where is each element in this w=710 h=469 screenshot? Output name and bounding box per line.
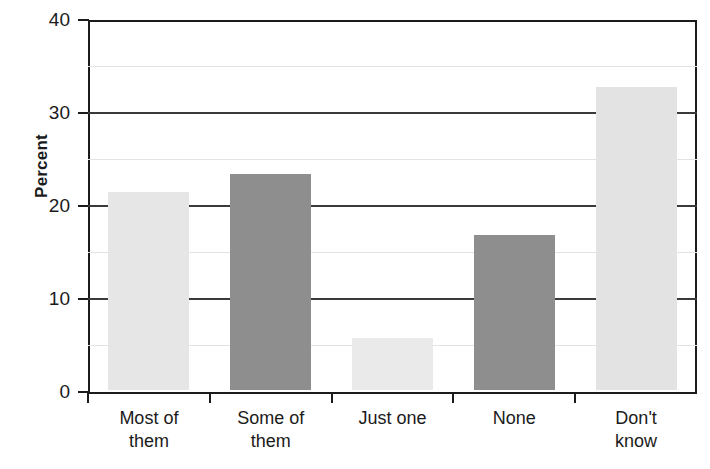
x-tick-label-1: Some ofthem <box>201 407 341 453</box>
bar-2 <box>352 338 433 390</box>
x-tick-mark-0 <box>87 392 89 403</box>
x-tick-mark-1 <box>209 392 211 403</box>
bar-3 <box>474 235 555 390</box>
y-tick-label-40: 40 <box>26 10 70 29</box>
x-tick-label-2: Just one <box>323 407 463 430</box>
gridline-minor-35 <box>88 66 697 67</box>
x-tick-label-0: Most ofthem <box>79 407 219 453</box>
plot-frame-right <box>695 20 697 394</box>
y-tick-label-0: 0 <box>26 382 70 401</box>
x-tick-mark-3 <box>452 392 454 403</box>
bar-chart: Percent 0 10 20 30 40 Most ofthemSome of… <box>0 0 710 469</box>
bar-1 <box>230 174 311 390</box>
x-axis-line <box>88 392 697 394</box>
plot-frame-top <box>88 20 697 22</box>
x-tick-mark-2 <box>331 392 333 403</box>
y-tick-label-10: 10 <box>26 289 70 308</box>
x-tick-label-3: None <box>444 407 584 430</box>
y-tick-label-20: 20 <box>26 196 70 215</box>
x-tick-label-4: Don'tknow <box>566 407 706 453</box>
y-tick-label-30: 30 <box>26 103 70 122</box>
x-tick-mark-4 <box>574 392 576 403</box>
bar-0 <box>108 192 189 390</box>
bar-4 <box>596 87 677 390</box>
plot-area <box>88 20 697 392</box>
plot-frame-left <box>88 20 90 394</box>
